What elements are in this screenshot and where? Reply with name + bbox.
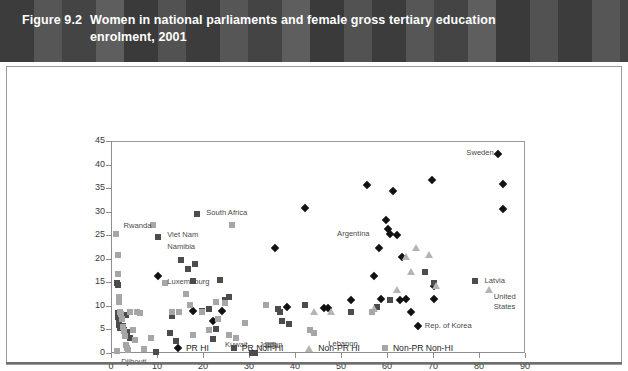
point-label: Rep. of Korea: [425, 322, 472, 331]
figure-title: Figure 9.2Women in national parliaments …: [22, 12, 602, 46]
data-point: [499, 180, 507, 188]
data-point: [194, 211, 200, 217]
legend-label: Non-PR HI: [318, 343, 360, 353]
y-tick-label: 45: [75, 135, 105, 145]
data-point: [188, 307, 196, 315]
point-label: Namibia: [167, 243, 195, 252]
data-point: [271, 244, 279, 252]
data-point: [347, 296, 355, 304]
data-point: [115, 271, 121, 277]
data-point: [206, 306, 212, 312]
chart-legend: PR HIPR Non-HINon-PR HINon-PR Non-HI: [6, 338, 622, 358]
data-point: [206, 327, 212, 333]
data-point: [185, 266, 191, 272]
data-point: [215, 316, 221, 322]
data-point: [375, 244, 383, 252]
data-point: [412, 244, 420, 251]
data-point: [402, 295, 410, 303]
legend-item: PR Non-HI: [231, 343, 284, 353]
data-point: [427, 175, 435, 183]
plot-area: RwandaViet NamNamibiaSouth AfricaLuxembo…: [111, 141, 525, 353]
legend-label: Non-PR Non-HI: [393, 343, 453, 353]
legend-label: PR Non-HI: [242, 343, 284, 353]
figure-title-line2: enrolment, 2001: [90, 29, 602, 46]
data-point: [310, 308, 318, 315]
data-point: [155, 234, 161, 240]
data-point: [494, 150, 502, 158]
plot-wrapper: % Women in national parliament 051015202…: [7, 67, 623, 366]
data-point: [119, 316, 125, 322]
data-point: [472, 278, 478, 284]
data-point: [327, 308, 335, 315]
square-marker-icon: [382, 345, 388, 351]
data-point: [115, 282, 121, 288]
data-point: [425, 251, 433, 258]
data-point: [377, 295, 385, 303]
data-point: [167, 330, 173, 336]
data-point: [393, 286, 401, 293]
data-point: [192, 261, 198, 267]
y-tick-label: 35: [75, 182, 105, 192]
data-point: [402, 253, 410, 260]
y-tick-label: 30: [75, 206, 105, 216]
point-label: United: [494, 293, 516, 302]
point-label: Viet Nam: [167, 231, 198, 240]
data-point: [178, 257, 184, 263]
figure-title-line1: Women in national parliaments and female…: [90, 13, 496, 27]
bottom-rule: [6, 362, 622, 364]
data-point: [407, 307, 415, 315]
data-point: [485, 286, 493, 293]
data-point: [363, 181, 371, 189]
square-marker-icon: [231, 345, 237, 351]
data-point: [199, 309, 205, 315]
data-point: [213, 326, 219, 332]
legend-item: PR HI: [175, 343, 209, 353]
y-tick-label: 10: [75, 300, 105, 310]
y-tick-label: 15: [75, 276, 105, 286]
data-point: [430, 295, 438, 303]
header-inner: Figure 9.2Women in national parliaments …: [0, 0, 628, 62]
data-point: [348, 309, 354, 315]
data-point: [422, 269, 428, 275]
figure-page: Figure 9.2Women in national parliaments …: [0, 0, 628, 371]
data-point: [187, 302, 193, 308]
data-point: [127, 309, 133, 315]
y-tick-label: 40: [75, 159, 105, 169]
chart-panel: % Women in national parliament 051015202…: [6, 66, 622, 365]
data-point: [277, 309, 283, 315]
legend-label: PR HI: [186, 343, 209, 353]
data-point: [130, 327, 136, 333]
data-point: [263, 302, 269, 308]
data-point: [301, 204, 309, 212]
data-point: [381, 215, 389, 223]
data-point: [286, 321, 292, 327]
data-point: [432, 282, 440, 289]
point-label: Sweden: [466, 149, 493, 158]
data-point: [279, 318, 285, 324]
data-point: [302, 302, 308, 308]
point-label: Argentina: [337, 230, 370, 239]
data-point: [176, 309, 182, 315]
data-point: [154, 272, 162, 280]
data-point: [115, 252, 121, 258]
data-point: [217, 277, 223, 283]
data-point: [407, 268, 415, 275]
data-point: [169, 309, 175, 315]
data-point: [222, 300, 228, 306]
data-point: [183, 291, 189, 297]
y-tick-label: 25: [75, 229, 105, 239]
y-tick-label: 20: [75, 253, 105, 263]
data-point: [499, 205, 507, 213]
data-point: [137, 310, 143, 316]
triangle-marker-icon: [305, 345, 313, 352]
data-point: [116, 299, 122, 305]
data-point: [218, 306, 226, 314]
legend-item: Non-PR HI: [305, 343, 360, 353]
point-label: South Africa: [206, 209, 247, 218]
point-label: Latvia: [485, 277, 505, 286]
y-tick-label: 5: [75, 323, 105, 333]
data-point: [311, 330, 317, 336]
data-point: [369, 309, 375, 315]
point-label: Rwanda: [124, 222, 152, 231]
data-point: [242, 320, 248, 326]
